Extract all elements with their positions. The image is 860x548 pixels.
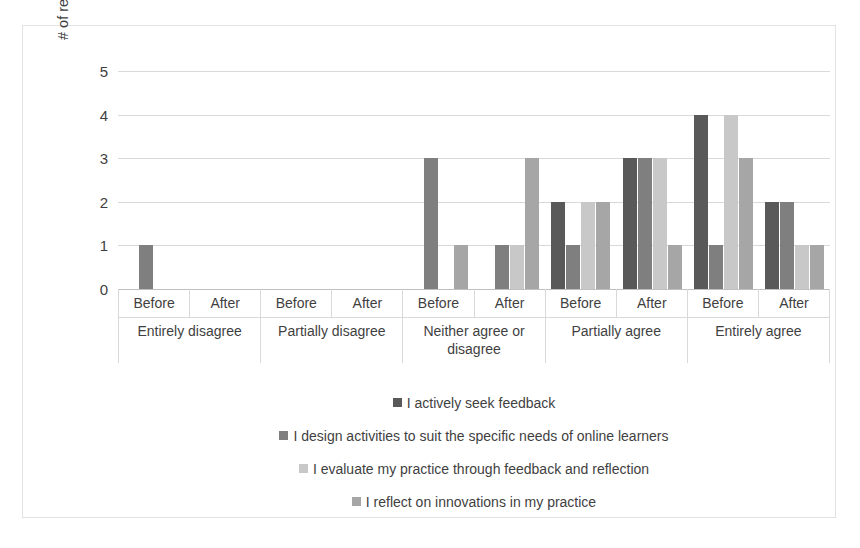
bar — [551, 202, 565, 289]
plot-area: 012345 — [118, 71, 830, 289]
period-group — [688, 71, 759, 289]
legend-swatch-icon — [299, 464, 308, 473]
period-label-row: BeforeAfter — [688, 289, 829, 317]
bar — [623, 158, 637, 289]
bar — [709, 245, 723, 289]
bar — [739, 158, 753, 289]
period-group — [403, 71, 474, 289]
bar — [510, 245, 524, 289]
x-axis-period-label: After — [475, 289, 545, 317]
x-axis-period-label: Before — [119, 289, 190, 317]
bar — [424, 158, 438, 289]
legend-label: I reflect on innovations in my practice — [366, 494, 596, 510]
x-axis-category-cell: BeforeAfterEntirely agree — [688, 289, 830, 363]
bar — [780, 202, 794, 289]
period-group — [545, 71, 616, 289]
x-axis-category-cell: BeforeAfterEntirely disagree — [119, 289, 261, 363]
legend-label: I actively seek feedback — [407, 395, 556, 411]
likert-group — [688, 71, 830, 289]
bar — [139, 245, 153, 289]
chart-legend: I actively seek feedbackI design activit… — [118, 386, 830, 518]
legend-item-inner: I reflect on innovations in my practice — [352, 494, 596, 510]
likert-group — [260, 71, 402, 289]
legend-item-inner: I actively seek feedback — [393, 395, 556, 411]
legend-item[interactable]: I evaluate my practice through feedback … — [118, 452, 830, 485]
bar — [596, 202, 610, 289]
x-axis-category-label: Partially disagree — [261, 317, 402, 363]
bar — [668, 245, 682, 289]
bar — [810, 245, 824, 289]
legend-item[interactable]: I actively seek feedback — [118, 386, 830, 419]
y-axis-title: # of respondents — [55, 0, 73, 86]
x-axis-category-label: Entirely agree — [688, 317, 829, 363]
bar — [495, 245, 509, 289]
x-axis-period-label: Before — [403, 289, 474, 317]
bar — [525, 158, 539, 289]
period-group — [759, 71, 830, 289]
y-axis-tick-label: 1 — [100, 237, 108, 254]
legend-label: I evaluate my practice through feedback … — [313, 461, 649, 477]
likert-group — [403, 71, 545, 289]
x-axis-labels: BeforeAfterEntirely disagreeBeforeAfterP… — [118, 289, 830, 363]
period-group — [189, 71, 260, 289]
bar — [694, 115, 708, 289]
period-group — [332, 71, 403, 289]
legend-item[interactable]: I design activities to suit the specific… — [118, 419, 830, 452]
period-group — [260, 71, 331, 289]
likert-group — [118, 71, 260, 289]
period-label-row: BeforeAfter — [261, 289, 402, 317]
legend-swatch-icon — [352, 497, 361, 506]
x-axis-period-label: After — [190, 289, 260, 317]
bar — [638, 158, 652, 289]
bar — [653, 158, 667, 289]
period-label-row: BeforeAfter — [119, 289, 260, 317]
y-axis-tick-label: 5 — [100, 63, 108, 80]
x-axis-category-label: Partially agree — [546, 317, 687, 363]
x-axis-period-label: After — [332, 289, 402, 317]
x-axis-category-label: Neither agree or disagree — [403, 317, 544, 363]
legend-item[interactable]: I reflect on innovations in my practice — [118, 485, 830, 518]
period-group — [474, 71, 545, 289]
chart-container: # of respondents 012345 BeforeAfterEntir… — [22, 25, 836, 518]
x-axis-period-label: After — [617, 289, 687, 317]
x-axis-category-cell: BeforeAfterPartially agree — [546, 289, 688, 363]
bar — [566, 245, 580, 289]
y-axis-tick-label: 3 — [100, 150, 108, 167]
y-axis-tick-label: 2 — [100, 193, 108, 210]
x-axis-period-label: Before — [546, 289, 617, 317]
x-axis-category-label: Entirely disagree — [119, 317, 260, 363]
x-axis-category-cell: BeforeAfterPartially disagree — [261, 289, 403, 363]
y-axis-tick-label: 4 — [100, 106, 108, 123]
legend-item-inner: I design activities to suit the specific… — [279, 428, 668, 444]
bar — [724, 115, 738, 289]
x-axis-period-label: Before — [688, 289, 759, 317]
period-label-row: BeforeAfter — [403, 289, 544, 317]
bar — [765, 202, 779, 289]
legend-swatch-icon — [393, 398, 402, 407]
period-label-row: BeforeAfter — [546, 289, 687, 317]
legend-label: I design activities to suit the specific… — [293, 428, 668, 444]
bar — [795, 245, 809, 289]
x-axis-period-label: After — [759, 289, 829, 317]
likert-group — [545, 71, 687, 289]
y-axis-tick-label: 0 — [100, 281, 108, 298]
legend-swatch-icon — [279, 431, 288, 440]
period-group — [616, 71, 687, 289]
period-group — [118, 71, 189, 289]
bar — [454, 245, 468, 289]
x-axis-category-cell: BeforeAfterNeither agree or disagree — [403, 289, 545, 363]
bar-groups — [118, 71, 830, 289]
legend-item-inner: I evaluate my practice through feedback … — [299, 461, 649, 477]
x-axis-period-label: Before — [261, 289, 332, 317]
bar — [581, 202, 595, 289]
